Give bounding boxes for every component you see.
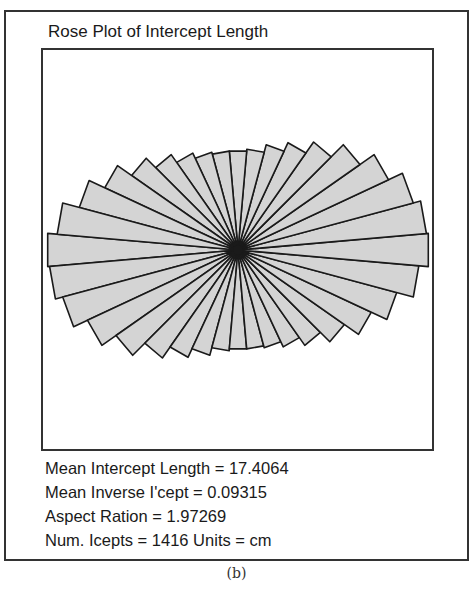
rose-plot: [41, 48, 434, 451]
mean-intercept-length: Mean Intercept Length = 17.4064: [45, 456, 289, 480]
aspect-ratio: Aspect Ration = 1.97269: [45, 504, 289, 528]
statistics-panel: Mean Intercept Length = 17.4064 Mean Inv…: [45, 456, 289, 552]
figure-caption: (b): [0, 565, 473, 581]
num-intercepts: Num. Icepts = 1416 Units = cm: [45, 528, 289, 552]
rose-center: [233, 245, 243, 255]
plot-title: Rose Plot of Intercept Length: [48, 22, 268, 42]
mean-inverse-intercept: Mean Inverse I'cept = 0.09315: [45, 480, 289, 504]
